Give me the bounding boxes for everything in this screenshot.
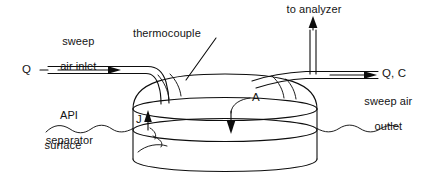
- analyzer-tube: [309, 16, 318, 74]
- sweep-air-inlet-label: sweep air inlet: [30, 22, 114, 85]
- area-symbol-label: A: [252, 91, 266, 104]
- sweep-air-inlet-line2: air inlet: [60, 60, 96, 72]
- outlet-flow-symbol: Q, C: [382, 67, 422, 80]
- thermocouple-label: thermocouple: [133, 27, 243, 40]
- chamber-waterline-ellipse: [133, 119, 317, 142]
- sweep-air-outlet-label: sweep air outlet: [340, 82, 424, 145]
- area-arrow-icon: [227, 98, 250, 134]
- flux-symbol-label: J: [136, 113, 150, 126]
- flux-chamber-diagram: sweep air inlet Q thermocouple to analyz…: [0, 0, 424, 182]
- sweep-air-outlet-line1: sweep air: [364, 95, 412, 107]
- outlet-arrow-icon: [330, 71, 377, 79]
- sweep-air-outlet-line2: outlet: [375, 120, 403, 132]
- api-separator-surface-label: surface: [18, 139, 108, 152]
- sweep-air-inlet-line1: sweep: [62, 35, 94, 47]
- inlet-flow-symbol: Q: [22, 63, 38, 76]
- api-separator-line1: API: [60, 109, 78, 121]
- flux-chamber-body: [133, 74, 317, 172]
- to-analyzer-label: to analyzer: [272, 3, 356, 16]
